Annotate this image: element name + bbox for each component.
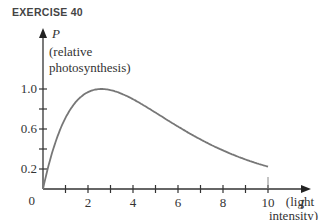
x-tick-label: 4 [130,195,137,210]
y-axis-sublabel: (relative [49,44,93,59]
y-tick-label: 0.2 [21,161,37,176]
x-tick-label: 2 [85,195,92,210]
y-axis-sublabel: photosynthesis) [49,60,131,75]
x-axis-sublabel: (light [286,194,315,209]
y-axis-arrow-icon [39,28,47,38]
y-tick-label: 1.0 [21,81,37,96]
x-axis-arrow-icon [301,185,311,193]
photosynthesis-curve [43,89,268,189]
origin-label: 0 [29,193,36,208]
y-tick-label: 0.6 [21,121,38,136]
x-tick-label: 6 [175,195,182,210]
x-tick-label: 8 [220,195,227,210]
y-axis-label: P [51,26,60,41]
photosynthesis-chart: 2468100.20.61.00P(relativephotosynthesis… [0,0,323,220]
x-axis-sublabel: intensity) [269,208,318,220]
